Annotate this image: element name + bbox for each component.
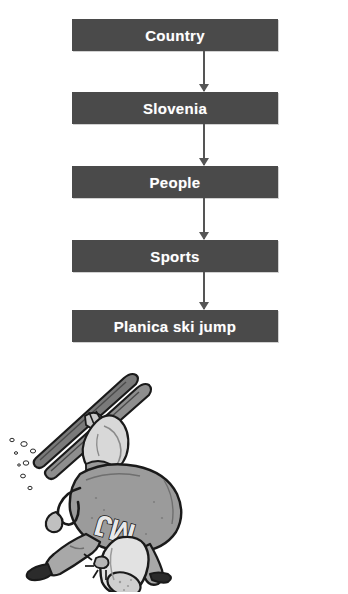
arrow-head-icon xyxy=(199,232,209,240)
flow-node-label: Country xyxy=(145,28,205,43)
flow-node-label: Planica ski jump xyxy=(114,319,236,334)
flow-node-people: People xyxy=(72,166,278,198)
flow-node-label: Slovenia xyxy=(143,101,207,116)
flow-node-slovenia: Slovenia xyxy=(72,92,278,124)
arrow-head-icon xyxy=(199,158,209,166)
arrow-head-icon xyxy=(199,84,209,92)
flow-arrow-people-to-sports xyxy=(199,198,209,239)
arrow-head-icon xyxy=(199,302,209,310)
flow-arrow-country-to-slovenia xyxy=(199,51,209,91)
flow-node-label: Sports xyxy=(150,249,199,264)
flow-node-planica-ski-jump: Planica ski jump xyxy=(72,310,278,342)
flow-node-label: People xyxy=(150,175,201,190)
flowchart: Country Slovenia People Sports Planica s… xyxy=(0,0,348,348)
flow-node-sports: Sports xyxy=(72,240,278,272)
flow-node-country: Country xyxy=(72,19,278,51)
flow-arrow-sports-to-planica xyxy=(199,272,209,309)
flow-arrow-slovenia-to-people xyxy=(199,124,209,165)
ski-jumper-illustration: .ol { stroke: #1a1a1a; stroke-linejoin: … xyxy=(0,352,230,592)
